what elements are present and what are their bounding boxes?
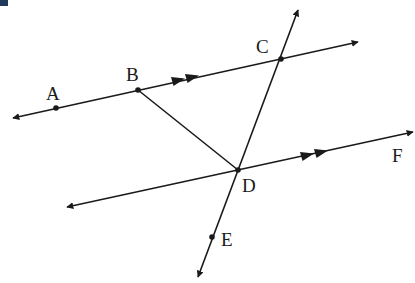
parallel-marks-lower xyxy=(300,149,328,161)
label-f: F xyxy=(392,145,403,166)
point-a xyxy=(53,105,59,111)
geometry-diagram: A B C D E F xyxy=(0,0,415,283)
label-c: C xyxy=(256,36,269,57)
point-c xyxy=(278,56,284,62)
point-d xyxy=(235,167,241,173)
point-e xyxy=(209,234,215,240)
label-d: D xyxy=(242,175,256,196)
label-e: E xyxy=(221,229,233,250)
label-a: A xyxy=(46,83,60,104)
label-b: B xyxy=(126,64,139,85)
segment-bd xyxy=(138,90,238,170)
line-abc xyxy=(13,42,358,118)
point-b xyxy=(135,87,141,93)
